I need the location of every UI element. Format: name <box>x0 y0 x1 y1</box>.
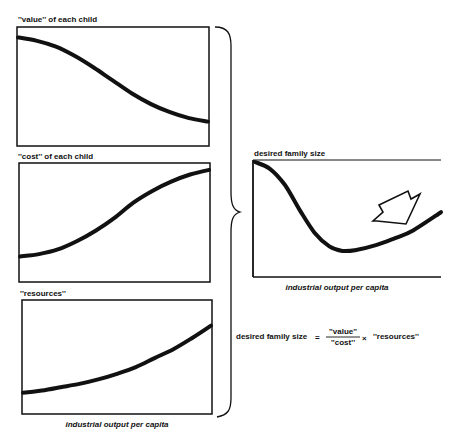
panel-resources-title: ''resources'' <box>20 289 66 298</box>
panel-value: ''value'' of each child <box>17 15 209 146</box>
curly-brace <box>215 27 240 417</box>
formula-numerator: ''value'' <box>329 327 357 336</box>
family-size-diagram: ''value'' of each child ''cost'' of each… <box>0 0 455 439</box>
panel-resources-curve <box>23 326 211 393</box>
hollow-arrow-icon <box>373 191 420 224</box>
panel-desired-xlabel: industrial output per capita <box>285 283 389 292</box>
panel-cost: ''cost'' of each child <box>18 152 210 282</box>
formula-equals: = <box>315 333 320 342</box>
panel-resources-xlabel: industrial output per capita <box>65 420 169 429</box>
formula-denominator: ''cost'' <box>331 338 355 347</box>
formula-rhs: ''resources'' <box>373 332 419 341</box>
panel-desired-title: desired family size <box>254 149 326 158</box>
formula: desired family size = ''value'' ''cost''… <box>236 327 419 347</box>
panel-resources: ''resources'' industrial output per capi… <box>20 289 212 429</box>
panel-resources-frame <box>22 300 212 414</box>
formula-times: × <box>362 334 367 343</box>
formula-lhs: desired family size <box>236 332 308 341</box>
panel-cost-title: ''cost'' of each child <box>18 152 93 161</box>
panel-cost-frame <box>19 163 210 282</box>
panel-value-title: ''value'' of each child <box>18 15 97 24</box>
panel-value-curve <box>18 37 208 121</box>
panel-desired: desired family size industrial output pe… <box>253 149 441 292</box>
panel-cost-curve <box>20 170 209 257</box>
